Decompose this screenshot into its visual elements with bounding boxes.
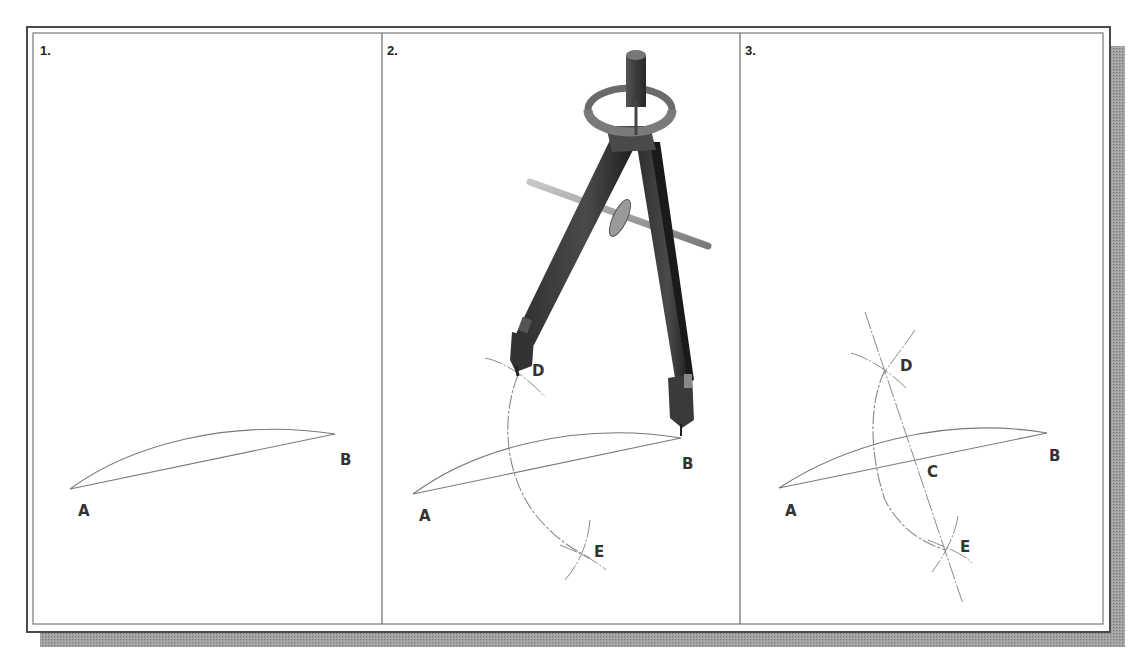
inner-border [33,33,1103,624]
point-b-label: B [682,455,693,473]
point-e-label: E [960,538,970,556]
point-b-label: B [340,451,351,469]
panel-2-label: 2. [387,43,398,58]
point-d-label: D [532,362,544,380]
point-e-label: E [594,543,604,561]
point-a-label: A [419,507,431,525]
point-c-label: C [927,463,938,481]
bisect-arc-figure: 1. A B 2. [0,0,1143,658]
point-d-label: D [900,357,912,375]
panel-1-label: 1. [40,43,51,58]
panel-3-label: 3. [745,43,756,58]
point-a-label: A [785,502,797,520]
point-b-label: B [1049,447,1060,465]
point-a-label: A [78,502,90,520]
